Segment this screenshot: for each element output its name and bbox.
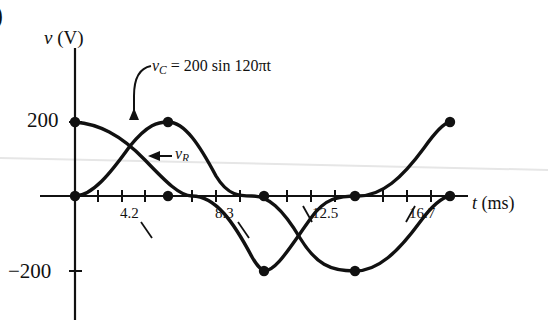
leader-16-7: [406, 206, 415, 222]
marker-vr-t4-2: [163, 191, 173, 201]
figure-panel: ) v (V) t (ms) 200 −200 4.2 8.3 12.5 16.…: [0, 0, 548, 336]
tick-label-leaders: [141, 206, 415, 238]
vr-arrowhead: [148, 151, 160, 161]
marker-vc-t8-3: [259, 266, 269, 276]
vc-leader-line: [134, 66, 151, 112]
marker-vc-t0: [70, 117, 80, 127]
leader-12-5: [303, 206, 312, 222]
vc-arrowhead: [129, 108, 139, 120]
plot-svg: [0, 0, 548, 336]
marker-vr-t12-5: [350, 266, 360, 276]
marker-axis-t8-3: [259, 191, 269, 201]
marker-axis-t12-5: [350, 191, 360, 201]
leader-4-2: [141, 222, 152, 238]
marker-axis-t16-7: [445, 191, 455, 201]
marker-vr-peak: [163, 117, 173, 127]
marker-vr-t0: [70, 191, 80, 201]
scan-artifact-line: [0, 158, 548, 170]
annotation-leaders: [129, 66, 172, 161]
marker-vc-t16-7: [445, 117, 455, 127]
